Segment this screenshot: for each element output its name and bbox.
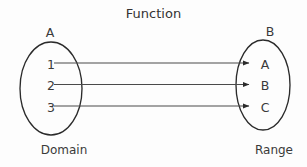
range-element-a: A [258,57,272,72]
range-element-c: C [258,100,272,115]
domain-element-2: 2 [44,78,58,93]
range-set-label: B [220,26,307,39]
domain-set-label: A [0,27,100,40]
function-mapping-diagram: Function A B 1 2 3 A B C Domain Range [0,0,307,167]
domain-element-3: 3 [44,100,58,115]
range-element-b: B [258,78,272,93]
range-caption: Range [218,144,307,156]
diagram-title: Function [0,7,307,20]
domain-element-1: 1 [44,57,58,72]
domain-caption: Domain [0,144,128,156]
